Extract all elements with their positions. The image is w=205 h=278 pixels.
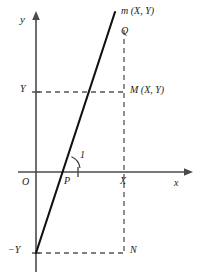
tick-y-positive-label: Y (20, 84, 26, 94)
figure-canvas: y x O m (X, Y) Q M (X, Y) Y −Y P X N 1 (0, 0, 205, 278)
unit-run-label: 1 (80, 150, 85, 160)
angle-arc (72, 157, 81, 168)
y-axis-arrowhead (32, 11, 40, 20)
line-m (36, 12, 115, 253)
point-x-label: X (120, 176, 126, 186)
x-axis-arrowhead (184, 168, 193, 176)
diagram-svg (0, 0, 205, 278)
point-q-label: Q (121, 26, 128, 36)
point-n-label: N (130, 245, 137, 255)
y-axis (32, 11, 40, 272)
line-m-label: m (X, Y) (121, 6, 154, 16)
origin-label: O (22, 177, 29, 187)
x-axis (18, 168, 193, 176)
x-axis-label: x (174, 178, 178, 188)
point-m-label: M (X, Y) (130, 85, 164, 95)
tick-y-negative-label: −Y (8, 245, 20, 255)
point-p-label: P (64, 176, 70, 186)
y-axis-label: y (20, 14, 25, 25)
